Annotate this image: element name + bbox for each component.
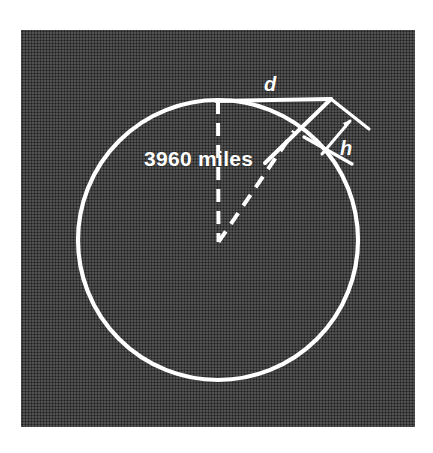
diagram-canvas bbox=[0, 0, 433, 453]
radius-label: 3960 miles bbox=[144, 148, 253, 169]
height-outer-tick bbox=[331, 99, 369, 129]
figure-root: 3960 miles d h bbox=[0, 0, 433, 453]
vertical-radius-dashed-line bbox=[218, 101, 219, 242]
height-label: h bbox=[340, 138, 352, 158]
distance-label: d bbox=[264, 74, 276, 94]
distance-d-line bbox=[216, 99, 331, 101]
